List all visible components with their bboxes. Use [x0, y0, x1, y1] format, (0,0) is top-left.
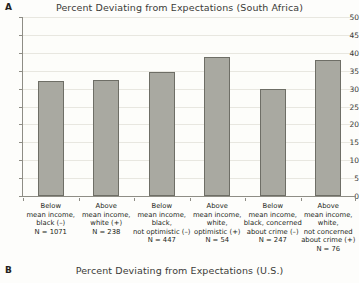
x-category-label-line: N = 247 — [241, 236, 305, 245]
x-category-label-line: about crime (–) — [241, 228, 305, 237]
x-tick-mark — [245, 198, 246, 201]
bar — [204, 57, 230, 196]
x-category-label-line: optimistic (+) — [186, 228, 250, 237]
x-category-label-line: N = 76 — [297, 245, 360, 254]
x-category-label-line: white, — [186, 219, 250, 228]
x-category-label-line: N = 1071 — [19, 228, 83, 237]
x-category-label-line: black, — [130, 219, 194, 228]
x-category-label-line: N = 447 — [130, 236, 194, 245]
x-category-label: Abovemean income,white,optimistic (+)N =… — [186, 202, 250, 245]
x-category-label-line: Below — [19, 202, 83, 211]
bar — [38, 81, 64, 196]
x-category-label-line: not concerned — [297, 228, 360, 237]
x-category-label-line: mean income, — [130, 211, 194, 220]
x-category-label-line: Above — [186, 202, 250, 211]
x-category-label-line: mean income, — [19, 211, 83, 220]
x-category-label-line: about crime (+) — [297, 236, 360, 245]
bar — [315, 60, 341, 196]
bar — [93, 80, 119, 196]
bar — [260, 89, 286, 196]
x-category-label-line: white, — [297, 219, 360, 228]
x-category-label-line: Below — [241, 202, 305, 211]
x-tick-mark — [190, 198, 191, 201]
x-tick-mark — [301, 198, 302, 201]
x-axis-labels: Belowmean income,black (–)N = 1071Abovem… — [23, 198, 356, 256]
x-category-label-line: mean income, — [75, 211, 139, 220]
x-category-label-line: mean income, — [241, 211, 305, 220]
x-category-label-line: mean income, — [186, 211, 250, 220]
x-category-label-line: black, concerned — [241, 219, 305, 228]
x-category-label-line: N = 54 — [186, 236, 250, 245]
x-category-label-line: not optimistic (–) — [130, 228, 194, 237]
bar — [149, 72, 175, 196]
x-axis-line — [22, 196, 356, 197]
x-category-label-line: Above — [297, 202, 360, 211]
x-category-label: Abovemean income,white,not concernedabou… — [297, 202, 360, 254]
chart-title: Percent Deviating from Expectations (Sou… — [0, 2, 359, 13]
x-category-label: Abovemean income,white (+)N = 238 — [75, 202, 139, 236]
x-tick-mark — [355, 198, 356, 201]
x-category-label-line: black (–) — [19, 219, 83, 228]
x-category-label-line: mean income, — [297, 211, 360, 220]
x-category-label-line: N = 238 — [75, 228, 139, 237]
x-category-label-line: Above — [75, 202, 139, 211]
x-category-label-line: white (+) — [75, 219, 139, 228]
x-category-label-line: Below — [130, 202, 194, 211]
x-tick-mark — [23, 198, 24, 201]
x-category-label: Belowmean income,black, concernedabout c… — [241, 202, 305, 245]
x-tick-mark — [79, 198, 80, 201]
bar-series — [23, 17, 356, 196]
chart-title-b: Percent Deviating from Expectations (U.S… — [0, 265, 359, 276]
x-category-label: Belowmean income,black,not optimistic (–… — [130, 202, 194, 245]
x-tick-mark — [134, 198, 135, 201]
chart-panel-a: A Percent Deviating from Expectations (S… — [0, 0, 359, 258]
x-category-label: Belowmean income,black (–)N = 1071 — [19, 202, 83, 236]
